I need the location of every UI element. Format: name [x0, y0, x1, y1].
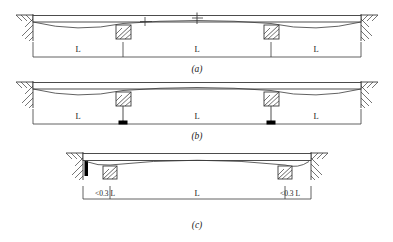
diagram-c: <0.3 L L <0.3 L (c): [66, 152, 328, 231]
dim-label-a-1: L: [75, 44, 80, 54]
deflection-curve-a-span3: [271, 22, 361, 28]
dim-label-c-2: L: [194, 188, 199, 198]
caption-a: (a): [191, 64, 202, 75]
deflection-curve-c-span1: [86, 162, 110, 166]
left-abutment-a: [16, 14, 33, 41]
end-stiffener-c: [85, 161, 89, 176]
right-abutment-c: [311, 152, 328, 180]
right-abutment-b: [361, 81, 378, 108]
structural-diagram-svg: L L L (a): [0, 0, 393, 242]
dim-label-a-2: L: [194, 44, 199, 54]
dim-label-b-1: L: [75, 111, 80, 121]
dim-label-b-2: L: [194, 111, 199, 121]
left-abutment-c: [66, 152, 83, 180]
deflection-curve-c-span2: [110, 160, 285, 165]
diagram-a: L L L (a): [16, 13, 378, 76]
dim-label-c-3: <0.3 L: [280, 189, 300, 198]
support-c-1: [103, 166, 117, 179]
right-abutment-a: [361, 14, 378, 41]
support-a-2: [264, 25, 279, 39]
dim-label-b-3: L: [313, 111, 318, 121]
deflection-curve-b-span1: [33, 89, 123, 95]
deflection-curve-a-span1: [33, 22, 123, 28]
support-b-2: [264, 92, 279, 123]
deflection-curve-b-span3: [271, 89, 361, 95]
dim-label-c-1: <0.3 L: [95, 189, 115, 198]
caption-b: (b): [191, 131, 202, 142]
beam-c: [83, 154, 311, 161]
support-b-1: [116, 92, 131, 123]
support-c-2: [278, 166, 292, 179]
caption-c: (c): [192, 220, 203, 231]
left-abutment-b: [16, 81, 33, 108]
figure-container: L L L (a): [0, 0, 393, 242]
beam-b: [33, 83, 361, 90]
support-marker-b-1: [119, 121, 128, 125]
dim-label-a-3: L: [313, 44, 318, 54]
support-marker-b-2: [267, 121, 276, 125]
diagram-b: L L L (b): [16, 81, 378, 142]
support-a-1: [116, 25, 131, 39]
